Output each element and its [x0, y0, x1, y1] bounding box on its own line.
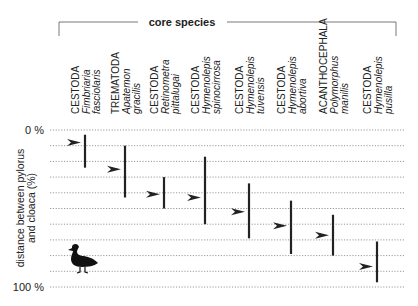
species-apatemon-gracilis: TREMATODAApatemongracilis	[107, 52, 142, 198]
group-label: core species	[149, 16, 216, 28]
species-label: TREMATODAApatemongracilis	[110, 52, 142, 115]
arrowhead-marker-icon	[231, 208, 245, 215]
species-label: CESTODAHymenolepisabortiva	[276, 56, 308, 114]
ytick-label-100: 100 %	[13, 281, 44, 293]
arrowhead-marker-icon	[67, 139, 81, 146]
arrowhead-marker-icon	[187, 194, 201, 201]
species-retinometra-pittalugai: CESTODARetinometrapittalugai	[146, 59, 181, 208]
species-fimbriaria-fasciolaris: CESTODAFimbriariafasciolaris	[67, 66, 102, 168]
species-hymenolepis-tuvensis: CESTODAHymenolepistuvensis	[231, 56, 266, 238]
core-species-bracket: core species	[59, 16, 396, 36]
gridlines	[50, 130, 405, 287]
arrowhead-marker-icon	[273, 222, 287, 229]
arrowhead-marker-icon	[107, 166, 121, 173]
species-label: ACANTHOCEPHALAPolymorphusmanilis	[318, 18, 350, 114]
species-label: CESTODAHymenolepistuvensis	[234, 56, 266, 114]
arrowhead-marker-icon	[315, 232, 329, 239]
species-hymenolepis-spinocirrosa: CESTODAHymenolepisspinocirrosa	[187, 56, 222, 224]
species-label: CESTODARetinometrapittalugai	[149, 59, 181, 115]
species-polymorphus-manilis: ACANTHOCEPHALAPolymorphusmanilis	[315, 18, 350, 256]
species-label: CESTODAHymenolepisspinocirrosa	[190, 56, 222, 114]
species-hymenolepis-pusilla: CESTODAHymenolepispusilla	[359, 56, 394, 282]
species-label: CESTODAFimbriariafasciolaris	[70, 66, 102, 114]
y-axis-label: distance between pylorusand cloaca (%)	[14, 149, 37, 268]
arrowhead-marker-icon	[359, 263, 373, 270]
species-label: CESTODAHymenolepispusilla	[362, 56, 394, 115]
ytick-label-0: 0 %	[25, 124, 44, 136]
range-chart: 0 %100 %distance between pylorusand cloa…	[0, 0, 418, 306]
duck-silhouette-icon	[68, 244, 98, 273]
arrowhead-marker-icon	[146, 191, 160, 198]
